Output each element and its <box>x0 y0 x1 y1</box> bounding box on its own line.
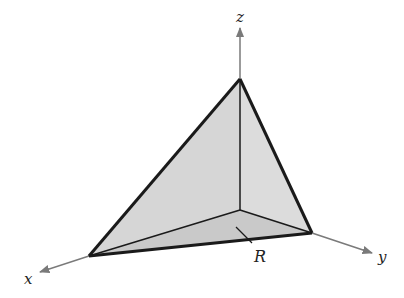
y-axis-label: y <box>377 248 387 266</box>
x-axis <box>40 256 89 272</box>
y-axis <box>312 233 372 253</box>
z-axis-label: z <box>235 8 244 26</box>
x-axis-label: x <box>24 270 33 288</box>
tetrahedron-diagram: z x y R <box>0 0 404 298</box>
region-label: R <box>253 247 266 266</box>
